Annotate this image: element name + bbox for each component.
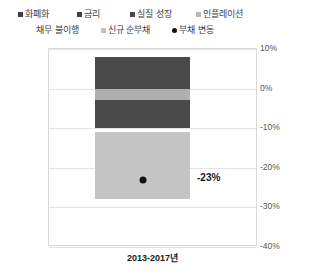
gridline (49, 247, 256, 248)
bar-segment[interactable] (95, 89, 190, 101)
y-axis-tick-label: -10% (260, 122, 280, 132)
legend-marker-dot-icon (172, 28, 177, 33)
legend-label: 인플레이션 (203, 10, 243, 19)
y-axis-tick-label: -40% (260, 241, 280, 251)
y-axis-tick-label: -30% (260, 201, 280, 211)
legend-label: 부채 변동 (179, 26, 214, 35)
legend-label: 채무 불이행 (36, 26, 79, 35)
legend-swatch-icon (196, 12, 201, 17)
legend-label: 금리 (84, 10, 100, 19)
y-axis-tick-label: 0% (260, 83, 272, 93)
bar-segment[interactable] (95, 100, 190, 128)
debt-change-marker (139, 176, 146, 183)
plot-area (48, 48, 257, 246)
bar-segment[interactable] (95, 132, 190, 199)
data-label: -23% (197, 172, 220, 183)
legend-row-1: 화폐화 금리 실질 성장 인플레이션 (0, 6, 309, 22)
legend-swatch-icon (130, 12, 135, 17)
legend-swatch-icon (77, 12, 82, 17)
legend-label: 신규 순부채 (108, 26, 151, 35)
legend-item-new-net-debt[interactable]: 신규 순부채 (101, 26, 151, 35)
chart-root: 화폐화 금리 실질 성장 인플레이션 채무 불이행 신규 순부채 (0, 0, 309, 275)
legend-swatch-icon (101, 28, 106, 33)
legend-item-monetization[interactable]: 화폐화 (18, 10, 49, 19)
legend-label: 실질 성장 (137, 10, 172, 19)
legend-row-2: 채무 불이행 신규 순부채 부채 변동 (0, 22, 309, 38)
legend-item-debt-change[interactable]: 부채 변동 (172, 26, 214, 35)
legend-label: 화폐화 (25, 10, 49, 19)
legend-item-default[interactable]: 채무 불이행 (34, 26, 79, 35)
chart-legend: 화폐화 금리 실질 성장 인플레이션 채무 불이행 신규 순부채 (0, 6, 309, 38)
legend-swatch-icon (18, 12, 23, 17)
legend-item-real-growth[interactable]: 실질 성장 (130, 10, 172, 19)
bar-segment[interactable] (95, 57, 190, 89)
y-axis-tick-label: -20% (260, 162, 280, 172)
y-axis-tick-label: 10% (260, 43, 277, 53)
legend-item-inflation[interactable]: 인플레이션 (196, 10, 243, 19)
stacked-bar[interactable] (95, 49, 190, 247)
x-axis-label: 2013-2017년 (48, 251, 257, 264)
legend-item-interest-rate[interactable]: 금리 (77, 10, 100, 19)
